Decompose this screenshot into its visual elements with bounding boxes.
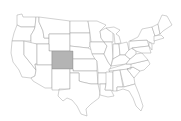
states-layer: WashingtonOregonCaliforniaIdahoNevadaMon… <box>11 14 172 116</box>
state-south-dakota: South Dakota <box>70 33 90 48</box>
state-washington: Washington <box>17 14 36 27</box>
state-massachusetts-ct-ri: Massachusetts/CT/RI <box>154 35 164 41</box>
state-north-dakota: North Dakota <box>70 21 90 33</box>
state-florida: Florida <box>117 84 143 111</box>
state-mississippi: Mississippi <box>105 72 113 91</box>
state-colorado: Colorado <box>52 51 73 69</box>
state-wyoming: Wyoming <box>49 34 70 51</box>
us-map: WashingtonOregonCaliforniaIdahoNevadaMon… <box>0 0 181 121</box>
state-new-mexico: New Mexico <box>52 69 70 90</box>
state-kansas: Kansas <box>73 59 97 71</box>
state-maine: Maine <box>158 15 172 34</box>
